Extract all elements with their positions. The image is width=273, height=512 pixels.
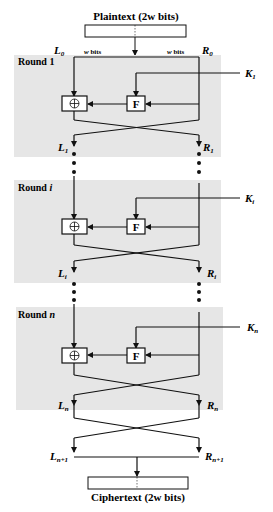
- k1-label: K1: [244, 67, 256, 81]
- final-swap: Ln+1 Rn+1: [49, 405, 224, 476]
- ellipsis-2: [72, 282, 201, 302]
- rn1-label: Rn+1: [204, 450, 224, 464]
- round-i: Round i Ki F Li Ri: [14, 176, 254, 283]
- feistel-diagram: Plaintext (2w bits) Round 1 L0 w bits w …: [0, 0, 273, 512]
- round-i-title: Round i: [18, 182, 52, 193]
- ciphertext-label: Ciphertext (2w bits): [91, 491, 185, 504]
- ki-label: Ki: [244, 192, 254, 206]
- plaintext-label: Plaintext (2w bits): [93, 10, 179, 23]
- ciphertext-box: [88, 477, 188, 489]
- round-1: Round 1 L0 w bits w bits R0 K1 F L1: [14, 44, 256, 157]
- round-1-bg: [14, 55, 221, 157]
- round-1-title: Round 1: [18, 56, 54, 67]
- round-i-bg: [14, 180, 221, 283]
- ln1-label: Ln+1: [49, 450, 68, 464]
- kn-label: Kn: [246, 321, 258, 335]
- round-n-bg: [16, 307, 223, 410]
- w-bits-right-label: w bits: [167, 48, 185, 56]
- plaintext-box: [85, 25, 186, 37]
- r0-label: R0: [201, 44, 213, 58]
- svg-text:F: F: [133, 98, 140, 110]
- l0-label: L0: [53, 44, 65, 58]
- svg-text:F: F: [133, 221, 140, 233]
- round-n: Round n Kn F Ln Rn: [16, 304, 258, 413]
- w-bits-left-label: w bits: [84, 48, 102, 56]
- round-n-title: Round n: [18, 309, 55, 320]
- svg-text:F: F: [133, 350, 140, 362]
